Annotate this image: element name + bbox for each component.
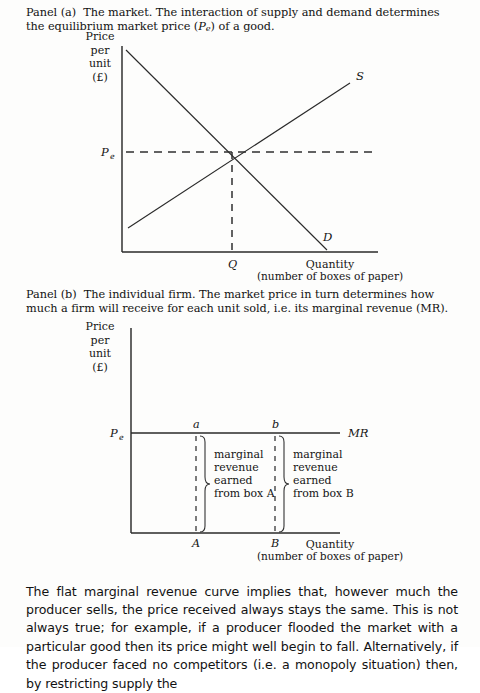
point-b-label: b — [272, 418, 279, 431]
supply-curve-label: S — [356, 69, 364, 83]
marginal-revenue-label: MR — [347, 426, 369, 440]
panel-a-caption-prefix: Panel (a) — [26, 6, 76, 19]
supply-curve — [128, 83, 350, 228]
annotation-b-line-3: from box B — [293, 487, 354, 500]
tick-a-label: A — [191, 537, 200, 550]
panel-b-price-marker-sub: e — [119, 433, 124, 442]
body-paragraph: The flat marginal revenue curve implies … — [26, 583, 458, 693]
demand-curve-label: D — [322, 230, 333, 244]
panel-a-chart: P e Q S D Quantity (number of boxes of p… — [0, 28, 480, 280]
box-a-brace — [200, 436, 210, 532]
panel-b-caption-text: The individual firm. The market price in… — [26, 288, 448, 315]
panel-a-x-label-line2: (number of boxes of paper) — [257, 270, 403, 282]
panel-b-chart: MR P e a A b B marginal revenue earned f… — [0, 318, 480, 568]
panel-a-price-marker-sub: e — [110, 152, 115, 161]
panel-b-caption-prefix: Panel (b) — [26, 288, 77, 301]
annotation-a-line-2: earned — [214, 474, 253, 487]
panel-b-caption: Panel (b) The individual firm. The marke… — [26, 288, 458, 316]
annotation-b-line-0: marginal — [293, 448, 343, 461]
box-b-brace — [279, 436, 289, 532]
point-a-label: a — [193, 418, 200, 431]
tick-b-label: B — [270, 537, 279, 550]
annotation-b-line-2: earned — [293, 474, 332, 487]
panel-a-quantity-marker: Q — [228, 258, 237, 271]
annotation-a-line-1: revenue — [214, 461, 259, 474]
demand-curve — [126, 50, 327, 250]
annotation-a-line-3: from box A — [214, 487, 275, 500]
annotation-b-line-1: revenue — [293, 461, 338, 474]
panel-a-price-marker: P — [100, 145, 109, 159]
panel-b-price-marker: P — [109, 426, 118, 440]
annotation-a-line-0: marginal — [214, 448, 264, 461]
panel-b-x-label-line2: (number of boxes of paper) — [257, 550, 403, 562]
